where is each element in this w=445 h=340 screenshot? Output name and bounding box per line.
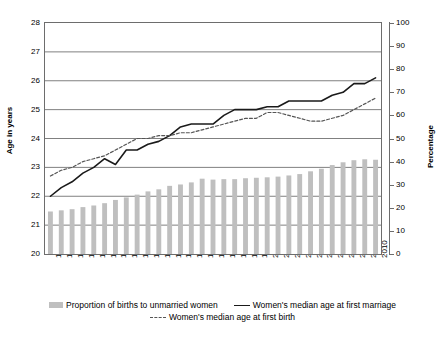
bar-1994 [200,179,205,254]
y-tick-left-25: 25 [22,105,40,114]
dashed-line-swatch-icon [150,317,166,318]
bar-1998 [243,178,248,254]
bar-1999 [254,178,259,254]
bar-1988 [135,195,140,254]
y-tick-left-24: 24 [22,134,40,143]
y-tick-mark-right-90 [390,46,394,47]
bar-2005 [319,169,324,254]
y-tick-left-21: 21 [22,220,40,229]
solid-line-swatch-icon [234,305,250,306]
bar-1990 [156,189,161,254]
y-tick-mark-right-80 [390,69,394,70]
y-tick-left-27: 27 [22,47,40,56]
bar-2006 [330,165,335,254]
y-tick-right-40: 40 [396,157,418,166]
bar-2002 [286,175,291,254]
bar-2010 [373,160,378,254]
y-tick-right-10: 10 [396,226,418,235]
bar-2004 [308,171,313,254]
bar-1986 [113,200,118,254]
legend-label-first-birth: Women's median age at first birth [169,312,295,322]
y-tick-left-20: 20 [22,249,40,258]
legend-label-unmarried-births: Proportion of births to unmarried women [66,300,218,310]
plot-svg [45,23,381,254]
bar-2000 [265,177,270,254]
y-axis-right-title: Percentage [426,112,435,182]
y-tick-right-70: 70 [396,87,418,96]
legend-row-primary: Proportion of births to unmarried women … [0,300,445,310]
bar-1992 [178,184,183,254]
y-tick-left-26: 26 [22,76,40,85]
chart-container: Age in years Percentage 2021222324252627… [0,0,445,340]
y-tick-right-20: 20 [396,203,418,212]
bar-1982 [70,209,75,254]
y-axis-left-title: Age in years [5,101,14,161]
bar-1991 [167,186,172,254]
y-tick-mark-right-0 [390,254,394,255]
y-tick-right-80: 80 [396,64,418,73]
bar-1980 [48,211,53,254]
bar-1995 [211,180,216,254]
y-tick-right-60: 60 [396,110,418,119]
y-tick-right-30: 30 [396,180,418,189]
bar-2003 [297,174,302,254]
legend-row-secondary: Women's median age at first birth [0,312,445,322]
y-tick-left-22: 22 [22,191,40,200]
bar-1984 [91,205,96,254]
bar-1997 [232,179,237,254]
bar-1981 [59,210,64,254]
bar-swatch-icon [49,302,63,308]
y-tick-mark-right-60 [390,115,394,116]
y-tick-mark-right-10 [390,231,394,232]
bar-2009 [362,159,367,254]
bar-2007 [341,162,346,254]
bar-1996 [221,179,226,254]
bar-1983 [80,207,85,254]
y-tick-mark-right-50 [390,139,394,140]
bar-1993 [189,182,194,254]
bar-2008 [351,160,356,254]
y-tick-right-90: 90 [396,41,418,50]
legend-item-first-marriage: Women's median age at first marriage [234,300,396,310]
plot-area [44,22,382,255]
bar-1987 [124,197,129,254]
y-tick-mark-right-70 [390,92,394,93]
y-tick-left-28: 28 [22,18,40,27]
y-tick-right-100: 100 [396,18,418,27]
y-tick-right-0: 0 [396,249,418,258]
y-tick-mark-right-30 [390,185,394,186]
legend-item-unmarried-births: Proportion of births to unmarried women [49,300,218,310]
y-tick-left-23: 23 [22,162,40,171]
line-first-marriage [50,78,375,196]
bar-1989 [146,191,151,254]
chart-legend: Proportion of births to unmarried women … [0,300,445,324]
legend-item-first-birth: Women's median age at first birth [150,312,295,322]
y-tick-mark-right-40 [390,162,394,163]
legend-label-first-marriage: Women's median age at first marriage [253,300,396,310]
y-tick-mark-right-20 [390,208,394,209]
y-tick-right-50: 50 [396,134,418,143]
bar-1985 [102,203,107,254]
bar-2001 [276,177,281,254]
y-tick-mark-right-100 [390,23,394,24]
